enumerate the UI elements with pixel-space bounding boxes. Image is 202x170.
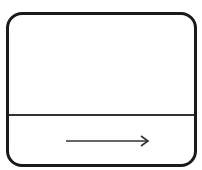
rounded-panel: [6, 12, 197, 167]
diagram-canvas: [0, 0, 202, 170]
horizontal-divider: [9, 114, 194, 116]
right-arrow-icon: [66, 134, 150, 148]
